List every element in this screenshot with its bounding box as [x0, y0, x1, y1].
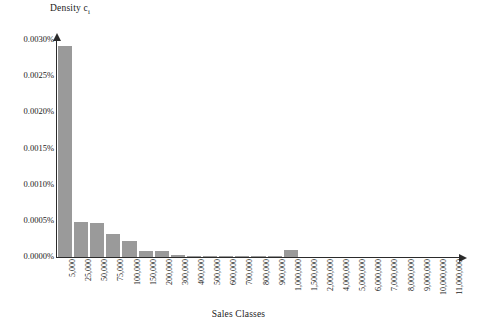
- x-axis-title: Sales Classes: [0, 309, 477, 319]
- density-histogram-figure: Density ci 0.0030%0.0025%0.0020%0.0015%0…: [0, 0, 477, 326]
- y-axis-tick-label: 0.0025%: [0, 71, 54, 80]
- x-axis-tick-label: 150,000: [146, 199, 155, 259]
- x-axis-tick-label: 50,000: [97, 199, 106, 259]
- x-axis-tick-label: 2,000,000: [323, 199, 332, 259]
- y-axis-title-text: Density c: [50, 3, 88, 13]
- y-axis-tick-label: 0.0010%: [0, 180, 54, 189]
- y-axis-title-subscript: i: [88, 8, 90, 16]
- y-axis-title: Density ci: [50, 3, 90, 16]
- x-axis-tick-label: 4,000,000: [339, 199, 348, 259]
- x-axis-tick-label: 75,000: [113, 199, 122, 259]
- x-axis-tick-label: 100,000: [130, 199, 139, 259]
- x-axis-tick-label: 10,000,000: [436, 199, 445, 259]
- x-axis-tick-label: 600,000: [226, 199, 235, 259]
- x-axis-tick-label: 1,000,000: [291, 199, 300, 259]
- x-axis-tick-label: 6,000,000: [371, 199, 380, 259]
- x-axis-tick-label: 800,000: [259, 199, 268, 259]
- y-axis-tick-label: 0.0015%: [0, 144, 54, 153]
- y-axis-tick-label: 0.0030%: [0, 35, 54, 44]
- x-axis-tick-label: 900,000: [275, 199, 284, 259]
- x-axis-tick-label: 300,000: [178, 199, 187, 259]
- x-axis-tick-label: 1,500,000: [307, 199, 316, 259]
- y-axis-tick-label: 0.0020%: [0, 107, 54, 116]
- x-axis-tick-label: 200,000: [162, 199, 171, 259]
- x-axis-tick-label: 25,000: [81, 199, 90, 259]
- x-axis-tick-label: 8,000,000: [404, 199, 413, 259]
- x-axis-tick-label: 7,000,000: [387, 199, 396, 259]
- x-axis-tick-label: 700,000: [242, 199, 251, 259]
- x-axis-tick-label: 500,000: [210, 199, 219, 259]
- x-axis-tick-label: 5,000,000: [355, 199, 364, 259]
- x-axis-tick-label: 11,000,000: [452, 199, 461, 259]
- y-axis-tick-label: 0.0000%: [0, 252, 54, 261]
- x-axis-tick-label: 9,000,000: [420, 199, 429, 259]
- x-axis-tick-label: 400,000: [194, 199, 203, 259]
- y-axis-tick-label: 0.0005%: [0, 216, 54, 225]
- x-axis-tick-label: 5,000: [65, 199, 74, 259]
